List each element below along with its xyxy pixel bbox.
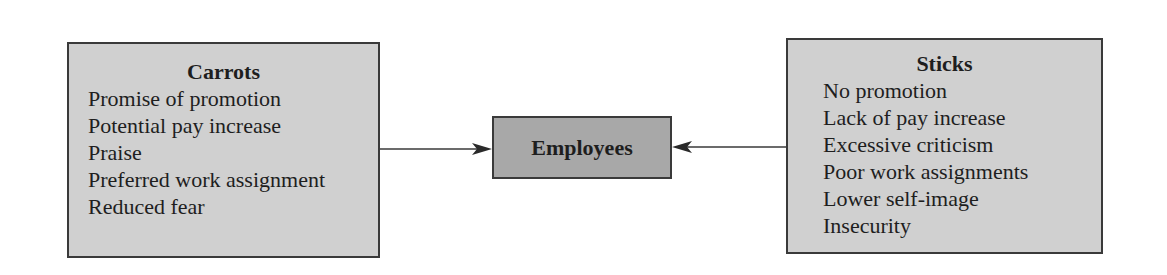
- connector-arrows: [0, 0, 1167, 275]
- sticks-to-employees-arrow: [672, 141, 786, 153]
- carrots-to-employees-arrow: [380, 143, 492, 155]
